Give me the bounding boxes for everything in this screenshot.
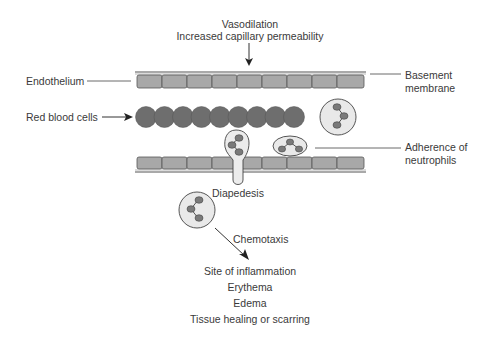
endothelial-cells-bottom (137, 157, 364, 169)
vasodilation-arrow (245, 43, 253, 66)
endothelial-cells-top (137, 75, 364, 88)
chemotaxis-arrow (215, 228, 249, 260)
rbc-arrow (102, 113, 133, 121)
adhering-neutrophil (273, 136, 307, 156)
bottom-vessel-wall (135, 157, 366, 172)
circulating-neutrophil (320, 99, 356, 135)
top-vessel-wall (135, 72, 366, 88)
inflammation-diagram (0, 0, 489, 338)
red-blood-cells (136, 107, 305, 128)
migrated-neutrophil (179, 192, 215, 228)
